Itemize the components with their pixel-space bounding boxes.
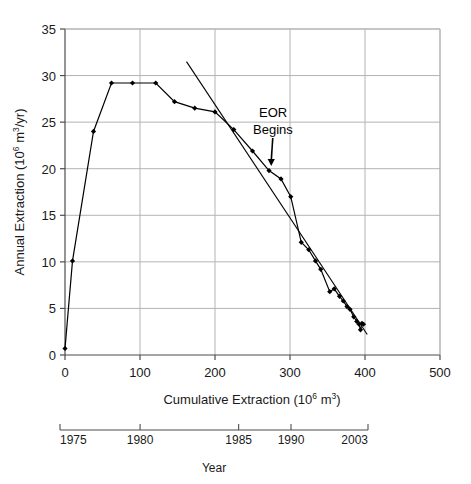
year-tick-label-1980: 1980: [127, 433, 154, 447]
year-tick-label-1990: 1990: [278, 433, 305, 447]
xtick-label-200: 200: [204, 365, 226, 380]
xtick-label-0: 0: [61, 365, 68, 380]
ytick-label-30: 30: [42, 69, 56, 84]
y-axis-title: Annual Extraction (106 m3/yr): [11, 109, 27, 276]
xtick-label-400: 400: [354, 365, 376, 380]
ytick-label-15: 15: [42, 208, 56, 223]
extraction-decline-chart: 05101520253035 0100200300400500 EOR Begi…: [0, 0, 471, 484]
ytick-label-10: 10: [42, 255, 56, 270]
year-tick-label-2003: 2003: [341, 433, 368, 447]
chart-figure: 05101520253035 0100200300400500 EOR Begi…: [0, 0, 471, 484]
year-axis-title: Year: [202, 461, 226, 475]
ytick-label-20: 20: [42, 162, 56, 177]
year-tick-label-1985: 1985: [225, 433, 252, 447]
figure-background: [0, 0, 471, 484]
xtick-label-300: 300: [279, 365, 301, 380]
ytick-label-0: 0: [49, 348, 56, 363]
xtick-label-100: 100: [129, 365, 151, 380]
ytick-label-5: 5: [49, 301, 56, 316]
xtick-label-500: 500: [429, 365, 451, 380]
year-tick-label-1975: 1975: [60, 433, 87, 447]
ytick-label-25: 25: [42, 115, 56, 130]
eor-label-line1: EOR: [259, 105, 287, 120]
eor-label-line2: Begins: [253, 122, 293, 137]
ytick-label-35: 35: [42, 22, 56, 37]
